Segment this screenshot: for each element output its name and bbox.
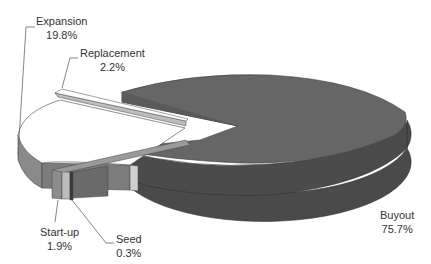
label-expansion: Expansion 19.8%: [36, 14, 87, 42]
label-startup-pct: 1.9%: [40, 239, 79, 253]
label-replacement-name: Replacement: [80, 46, 145, 60]
label-replacement: Replacement 2.2%: [80, 46, 145, 74]
label-startup-name: Start-up: [40, 225, 79, 239]
label-buyout-name: Buyout: [380, 208, 414, 222]
label-replacement-pct: 2.2%: [80, 60, 145, 74]
label-startup: Start-up 1.9%: [40, 225, 79, 253]
label-buyout: Buyout 75.7%: [380, 208, 414, 236]
label-seed-name: Seed: [116, 232, 142, 246]
label-expansion-name: Expansion: [36, 14, 87, 28]
label-buyout-pct: 75.7%: [380, 222, 414, 236]
label-expansion-pct: 19.8%: [36, 28, 87, 42]
label-seed: Seed 0.3%: [116, 232, 142, 260]
label-seed-pct: 0.3%: [116, 246, 142, 260]
